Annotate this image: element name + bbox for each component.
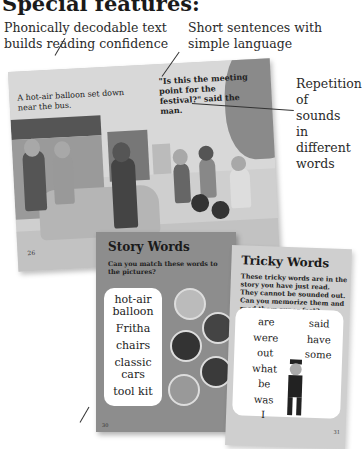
tricky-word: be bbox=[247, 376, 282, 393]
caption-right: "Is this the meeting point for the festi… bbox=[158, 71, 260, 116]
callout-sentences: Short sentences with simple language bbox=[188, 20, 358, 52]
balloon-picture bbox=[174, 288, 206, 320]
tricky-word: what bbox=[247, 360, 282, 377]
story-words-page: Story Words Can you match these words to… bbox=[96, 232, 236, 432]
tricky-words-list: are were out what be was I said have som… bbox=[232, 307, 344, 419]
person-illustration bbox=[229, 168, 251, 209]
story-words-list: hot-air balloon Fritha chairs classic ca… bbox=[104, 288, 162, 406]
tricky-words-column-1: are were out what be was I bbox=[246, 314, 284, 424]
child-head bbox=[211, 201, 230, 220]
tricky-word: I bbox=[246, 407, 281, 424]
tricky-word: out bbox=[248, 345, 283, 362]
man-illustration bbox=[282, 359, 308, 418]
leader-line bbox=[80, 407, 90, 423]
story-word: tool kit bbox=[104, 386, 162, 398]
page-heading: Special features: bbox=[2, 0, 200, 16]
story-word: classic cars bbox=[104, 357, 162, 381]
tricky-word: are bbox=[249, 314, 284, 331]
person-illustration bbox=[22, 150, 47, 211]
tricky-words-page: Tricky Words These tricky words are in t… bbox=[225, 245, 352, 449]
tricky-words-column-2: said have some bbox=[298, 315, 340, 363]
person-illustration bbox=[111, 157, 139, 228]
person-illustration bbox=[52, 154, 75, 205]
tricky-words-title: Tricky Words bbox=[241, 253, 329, 270]
callout-phonics: Phonically decodable text builds reading… bbox=[4, 20, 179, 52]
building-illustration bbox=[152, 144, 172, 175]
page-number: 26 bbox=[27, 249, 35, 256]
person-illustration bbox=[199, 157, 217, 198]
tricky-word: were bbox=[249, 329, 284, 346]
callout-repetition: Repetition of sounds in different words bbox=[296, 76, 356, 172]
classic-car-picture bbox=[168, 374, 200, 406]
story-words-title: Story Words bbox=[108, 240, 190, 254]
tricky-word: said bbox=[299, 315, 340, 332]
page-number: 30 bbox=[102, 422, 108, 428]
tricky-word: was bbox=[246, 391, 281, 408]
story-word: hot-air balloon bbox=[104, 294, 162, 318]
page-number: 31 bbox=[333, 429, 340, 435]
story-word: chairs bbox=[104, 340, 162, 352]
child-head bbox=[191, 194, 210, 213]
story-words-subtitle: Can you match these words to the picture… bbox=[108, 260, 218, 276]
tool-kit-picture bbox=[170, 330, 202, 362]
person-illustration bbox=[173, 163, 191, 204]
tricky-word: have bbox=[299, 331, 340, 348]
story-word: Fritha bbox=[104, 323, 162, 335]
